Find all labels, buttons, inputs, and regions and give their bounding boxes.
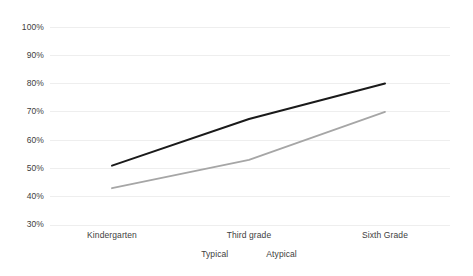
- line-chart: 100% 90% 80% 70% 60% 50% 40% 30% Kinderg…: [0, 0, 473, 276]
- legend-item-typical: Typical: [176, 249, 228, 259]
- chart-legend: Typical Atypical: [0, 249, 473, 259]
- gridlines: [50, 27, 450, 225]
- series-line-typical: [112, 84, 385, 166]
- legend-label-atypical: Atypical: [266, 249, 297, 259]
- ytick-label-40: 40%: [4, 191, 44, 201]
- ytick-label-70: 70%: [4, 106, 44, 116]
- xtick-label-kindergarten: Kindergarten: [62, 230, 162, 240]
- ytick-label-80: 80%: [4, 78, 44, 88]
- legend-label-typical: Typical: [201, 249, 228, 259]
- xtick-label-sixth-grade: Sixth Grade: [335, 230, 435, 240]
- ytick-label-60: 60%: [4, 135, 44, 145]
- legend-item-atypical: Atypical: [241, 249, 297, 259]
- series-line-atypical: [112, 112, 385, 188]
- series-lines: [112, 84, 385, 189]
- xtick-label-third-grade: Third grade: [199, 230, 299, 240]
- ytick-label-30: 30%: [4, 219, 44, 229]
- ytick-label-100: 100%: [4, 22, 44, 32]
- ytick-label-90: 90%: [4, 50, 44, 60]
- ytick-label-50: 50%: [4, 163, 44, 173]
